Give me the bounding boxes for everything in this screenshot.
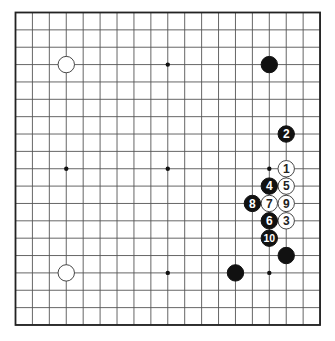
white-stone: 7 [261, 195, 277, 211]
black-stone [278, 247, 294, 263]
go-board: 12345678910 [0, 0, 335, 341]
black-stone: 8 [244, 195, 260, 211]
white-stone: 9 [278, 195, 294, 211]
move-number: 4 [266, 179, 273, 193]
move-number: 7 [266, 197, 273, 211]
white-stone [58, 265, 74, 281]
black-stone: 6 [261, 213, 277, 229]
black-stone [227, 265, 243, 281]
white-stone: 3 [278, 213, 294, 229]
black-stone: 4 [261, 178, 277, 194]
white-stone: 5 [278, 178, 294, 194]
white-stone: 1 [278, 161, 294, 177]
move-number: 8 [249, 197, 256, 211]
move-number: 5 [283, 179, 290, 193]
move-number: 9 [283, 197, 290, 211]
white-stone [58, 56, 74, 72]
star-point [267, 167, 271, 171]
black-stone: 2 [278, 126, 294, 142]
black-stone [261, 56, 277, 72]
black-stone: 10 [261, 230, 277, 246]
star-point [267, 271, 271, 275]
move-number: 3 [283, 214, 290, 228]
star-point [64, 167, 68, 171]
star-point [166, 62, 170, 66]
move-number: 2 [283, 127, 290, 141]
star-point [166, 271, 170, 275]
move-number: 1 [283, 162, 290, 176]
move-number: 10 [263, 232, 275, 244]
star-point [166, 167, 170, 171]
move-number: 6 [266, 214, 273, 228]
